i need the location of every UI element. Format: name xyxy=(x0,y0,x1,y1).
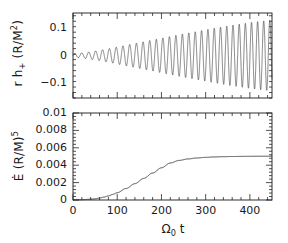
x-tick-label: 0 xyxy=(49,204,97,217)
axis-frames-group xyxy=(73,13,272,200)
x-tick-label: 200 xyxy=(137,204,185,217)
axis-ticks-group xyxy=(73,13,272,200)
waveform-curve xyxy=(73,20,272,90)
top-panel-ytick-label: 0.1 xyxy=(0,21,67,34)
energy-flux-curve xyxy=(73,156,272,200)
bottom-panel-ytick-label: 0.002 xyxy=(0,176,67,189)
figure-root: r h+ (R/M2) Ė (R/M)5 Ω0 t 0.10−0.100.00… xyxy=(0,0,288,243)
top-panel-ytick-label: 0 xyxy=(0,49,67,62)
bottom-panel-ytick-label: 0.004 xyxy=(0,158,67,171)
top-panel-ytick-label: −0.1 xyxy=(0,76,67,89)
x-tick-label: 400 xyxy=(226,204,274,217)
x-tick-label: 100 xyxy=(93,204,141,217)
bottom-panel-ytick-label: 0.006 xyxy=(0,141,67,154)
bottom-panel-ytick-label: 0.008 xyxy=(0,123,67,136)
x-tick-label: 300 xyxy=(182,204,230,217)
bottom-panel-ytick-label: 0.01 xyxy=(0,106,67,119)
